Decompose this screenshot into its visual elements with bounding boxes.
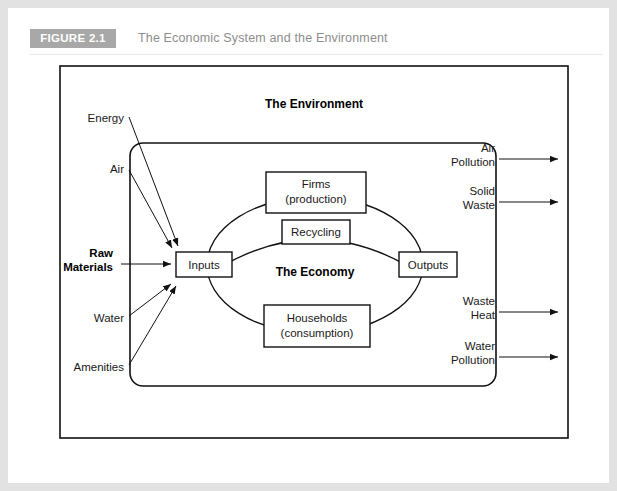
recycling-node: Recycling bbox=[282, 220, 350, 244]
diagram-canvas: The Environment Inputs Outputs Firms (pr… bbox=[16, 54, 617, 491]
output-label-waste-heat-line1: Waste bbox=[463, 295, 495, 307]
output-arrow-waste-heat: Waste Heat bbox=[463, 295, 558, 321]
output-label-water-pollution-line2: Pollution bbox=[451, 354, 495, 366]
input-arrow-water: Water bbox=[94, 284, 171, 324]
inputs-label: Inputs bbox=[188, 259, 220, 271]
input-label-raw-materials-line2: Materials bbox=[63, 261, 113, 273]
input-label-raw-materials-line1: Raw bbox=[89, 247, 113, 259]
figure-title: The Economic System and the Environment bbox=[138, 31, 388, 45]
input-label-energy-line1: Energy bbox=[88, 112, 125, 124]
figure-frame: FIGURE 2.1 The Economic System and the E… bbox=[0, 0, 617, 491]
output-arrow-solid-waste: Solid Waste bbox=[463, 185, 558, 211]
households-label-line1: Households bbox=[287, 312, 348, 324]
input-arrowline-air bbox=[129, 170, 172, 248]
output-label-solid-waste-line2: Waste bbox=[463, 199, 495, 211]
input-label-amenities-line1: Amenities bbox=[74, 361, 125, 373]
input-arrow-energy: Energy bbox=[88, 112, 178, 246]
inputs-node: Inputs bbox=[176, 252, 232, 277]
households-label-line2: (consumption) bbox=[281, 327, 354, 339]
environment-label: The Environment bbox=[265, 97, 363, 111]
economic-system-diagram: The Environment Inputs Outputs Firms (pr… bbox=[16, 54, 617, 491]
output-arrow-water-pollution: Water Pollution bbox=[451, 340, 558, 366]
output-label-solid-waste-line1: Solid bbox=[469, 185, 495, 197]
figure-header: FIGURE 2.1 The Economic System and the E… bbox=[16, 22, 617, 54]
outputs-node: Outputs bbox=[399, 252, 457, 277]
input-arrow-raw-materials: Raw Materials bbox=[63, 247, 171, 273]
output-arrow-air-pollution: Air Pollution bbox=[451, 142, 558, 168]
output-label-air-pollution-line2: Pollution bbox=[451, 156, 495, 168]
economy-label: The Economy bbox=[276, 265, 355, 279]
firms-label-line1: Firms bbox=[302, 178, 331, 190]
output-label-waste-heat-line2: Heat bbox=[471, 309, 496, 321]
input-label-air-line1: Air bbox=[110, 163, 124, 175]
recycling-label: Recycling bbox=[291, 226, 341, 238]
input-arrow-amenities: Amenities bbox=[74, 286, 177, 373]
input-arrowline-water bbox=[129, 284, 171, 316]
output-label-water-pollution-line1: Water bbox=[465, 340, 495, 352]
input-label-water-line1: Water bbox=[94, 312, 124, 324]
outputs-label: Outputs bbox=[408, 259, 449, 271]
output-label-air-pollution-line1: Air bbox=[481, 142, 495, 154]
firms-node: Firms (production) bbox=[266, 172, 366, 213]
households-node: Households (consumption) bbox=[264, 305, 370, 347]
input-arrowline-energy bbox=[129, 117, 178, 246]
firms-label-line2: (production) bbox=[285, 193, 347, 205]
figure-number-badge: FIGURE 2.1 bbox=[30, 29, 116, 48]
